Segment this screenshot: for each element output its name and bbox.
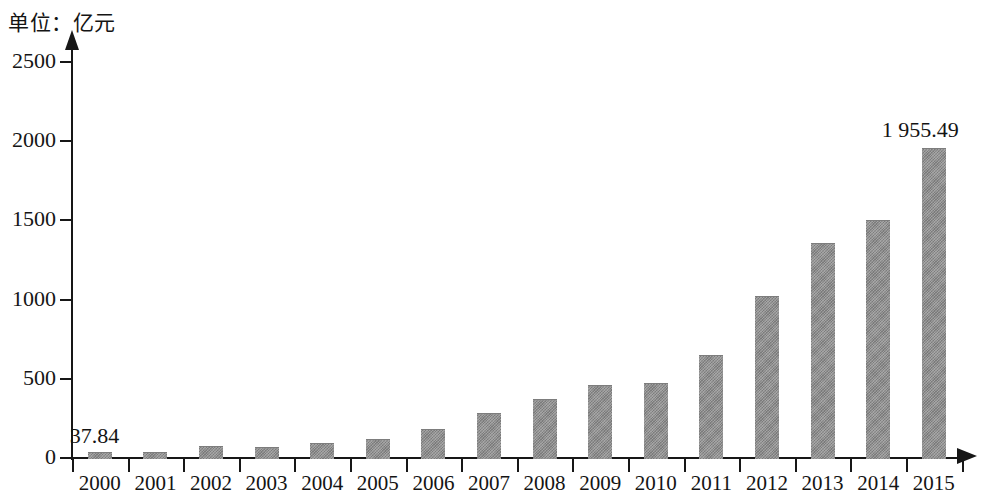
x-axis-tick	[739, 459, 741, 472]
x-axis-tick	[406, 459, 408, 472]
x-axis-tick	[906, 459, 908, 472]
y-axis-tick	[60, 457, 71, 459]
x-axis-tick	[850, 459, 852, 472]
bar-chart: 单位：亿元 25002000150010005000 2000200120022…	[0, 0, 981, 496]
bar-2013	[811, 243, 835, 459]
x-axis-tick	[684, 459, 686, 472]
value-label-2000: 37.84	[70, 424, 120, 448]
x-axis-tick-label: 2006	[405, 472, 461, 495]
y-axis-tick	[60, 140, 71, 142]
y-axis-tick	[60, 378, 71, 380]
x-axis-tick-label: 2001	[127, 472, 183, 495]
y-axis-label-wrap: 2500	[0, 50, 56, 72]
unit-caption: 单位：亿元	[8, 6, 116, 36]
x-axis-tick	[628, 459, 630, 472]
value-label-2015: 1 955.49	[882, 118, 959, 142]
bar-2008	[533, 399, 557, 459]
y-axis-label-wrap: 2000	[0, 129, 56, 151]
bar-2001	[143, 452, 167, 459]
x-axis-tick-label: 2012	[739, 472, 795, 495]
y-axis-label-wrap: 1500	[0, 208, 56, 230]
y-axis-tick-label: 500	[0, 367, 56, 389]
x-axis-tick-label: 2010	[628, 472, 684, 495]
y-axis-tick-label: 2000	[0, 129, 56, 151]
y-axis-tick	[60, 61, 71, 63]
x-axis-tick-label: 2004	[294, 472, 350, 495]
x-axis-tick-label: 2013	[795, 472, 851, 495]
x-axis-tick	[572, 459, 574, 472]
y-axis-tick-label: 2500	[0, 50, 56, 72]
x-axis-tick-label: 2015	[906, 472, 962, 495]
x-axis-tick	[128, 459, 130, 472]
x-axis-tick	[962, 459, 964, 472]
x-axis-tick	[72, 459, 74, 472]
y-axis-line	[71, 46, 73, 460]
bar-2012	[755, 296, 779, 459]
bar-2000	[88, 452, 112, 459]
x-axis-tick	[461, 459, 463, 472]
x-axis-tick-label: 2008	[517, 472, 573, 495]
x-axis-tick	[183, 459, 185, 472]
x-axis-tick-label: 2005	[350, 472, 406, 495]
x-axis-tick	[795, 459, 797, 472]
bar-2005	[366, 439, 390, 459]
bar-2014	[866, 220, 890, 459]
x-axis-tick	[239, 459, 241, 472]
x-axis-tick-label: 2002	[183, 472, 239, 495]
y-axis-label-wrap: 0	[0, 446, 56, 468]
y-axis-tick-label: 1500	[0, 208, 56, 230]
y-axis-tick	[60, 299, 71, 301]
bar-2010	[644, 383, 668, 459]
x-axis-tick	[517, 459, 519, 472]
x-axis-tick-label: 2003	[239, 472, 295, 495]
bar-2011	[699, 355, 723, 459]
y-axis-tick-label: 1000	[0, 288, 56, 310]
bar-2004	[310, 443, 334, 459]
x-axis-tick-label: 2000	[72, 472, 128, 495]
bar-2009	[588, 385, 612, 459]
bar-2002	[199, 446, 223, 459]
x-axis-arrow-icon	[957, 448, 977, 464]
y-axis-label-wrap: 1000	[0, 288, 56, 310]
y-axis-label-wrap: 500	[0, 367, 56, 389]
bar-2006	[421, 429, 445, 459]
x-axis-tick-label: 2011	[683, 472, 739, 495]
x-axis-tick-label: 2009	[572, 472, 628, 495]
x-axis-tick-label: 2007	[461, 472, 517, 495]
bar-2003	[255, 447, 279, 459]
y-axis-tick	[60, 219, 71, 221]
x-axis-tick	[350, 459, 352, 472]
x-axis-tick	[294, 459, 296, 472]
bar-2015	[922, 148, 946, 459]
x-axis-tick-label: 2014	[850, 472, 906, 495]
y-axis-tick-label: 0	[0, 446, 56, 468]
bar-2007	[477, 413, 501, 459]
